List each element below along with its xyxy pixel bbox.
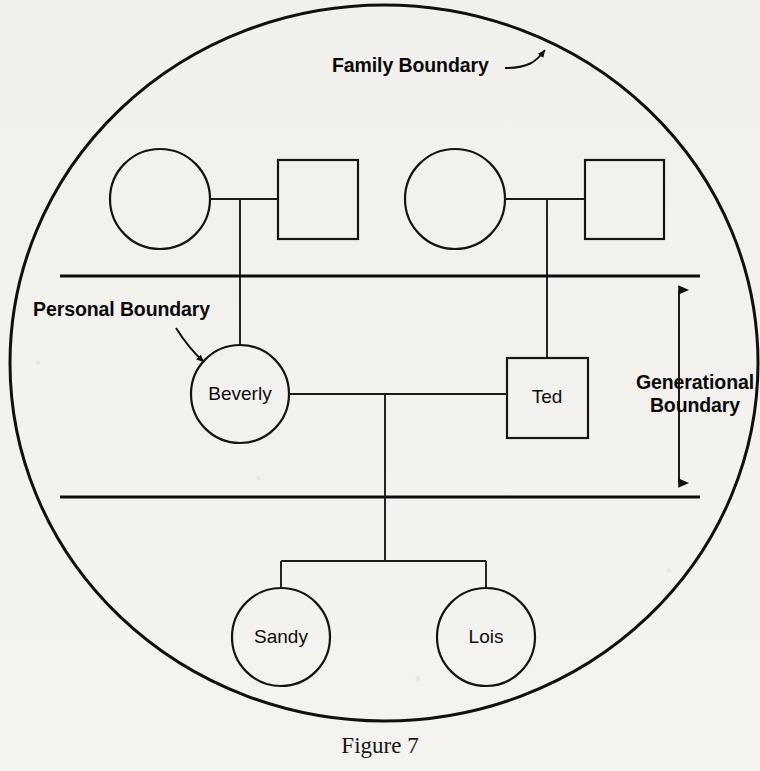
annotation-personal-boundary: Personal Boundary xyxy=(33,298,210,320)
genogram-canvas: Beverly Ted Sandy Lois Family Boundary P… xyxy=(0,0,760,771)
family-boundary-leader-line xyxy=(505,50,545,68)
person-grandfather-maternal-square[interactable] xyxy=(278,160,358,239)
person-grandfather-paternal-square[interactable] xyxy=(585,160,664,239)
person-grandmother-paternal-circle[interactable] xyxy=(405,149,505,249)
personal-boundary-leader-line xyxy=(176,328,204,362)
label-lois: Lois xyxy=(469,626,504,647)
label-sandy: Sandy xyxy=(254,626,308,647)
annotation-generational-boundary-line2: Boundary xyxy=(650,394,740,416)
label-beverly: Beverly xyxy=(208,383,272,404)
annotation-generational-boundary-line1: Generational xyxy=(636,371,754,393)
figure-caption: Figure 7 xyxy=(341,733,418,758)
label-ted: Ted xyxy=(532,386,563,407)
person-grandmother-maternal-circle[interactable] xyxy=(110,149,210,249)
family-boundary-ring xyxy=(10,5,758,721)
annotation-family-boundary: Family Boundary xyxy=(332,54,489,76)
genogram-figure: Beverly Ted Sandy Lois Family Boundary P… xyxy=(0,0,760,771)
